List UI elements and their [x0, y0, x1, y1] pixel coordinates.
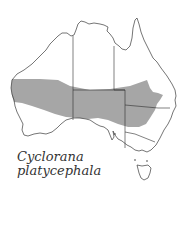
species-label: Cyclorana platycephala — [17, 150, 101, 178]
island-dot — [146, 160, 148, 162]
island-dot — [134, 159, 136, 161]
border-vic-nsw — [125, 132, 155, 142]
island-dot — [114, 133, 116, 135]
species-epithet: platycephala — [17, 164, 101, 178]
species-genus: Cyclorana — [17, 150, 101, 164]
species-range-area — [11, 79, 163, 127]
coastline-tasmania — [137, 165, 151, 180]
